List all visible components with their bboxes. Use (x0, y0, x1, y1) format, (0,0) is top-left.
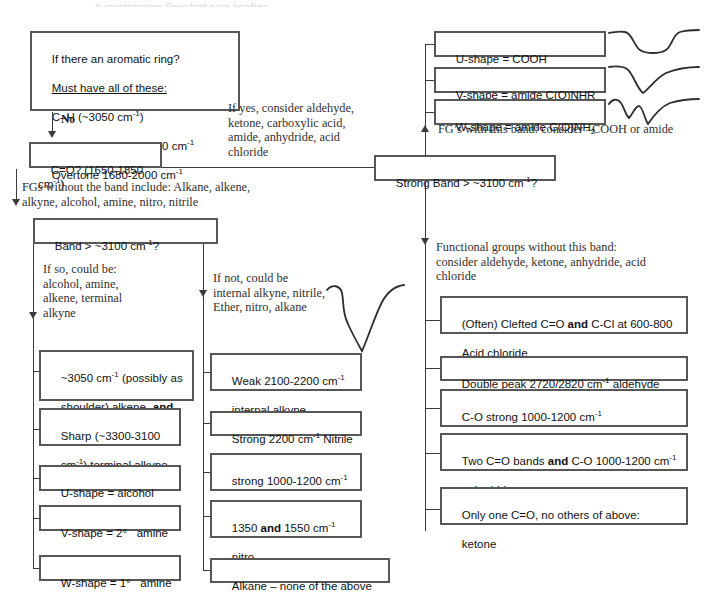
result-ether: strong 1000-1200 cm-1 ether (210, 453, 362, 491)
band-decision-box: Band > ~3100 cm-1? (33, 218, 218, 244)
connector-carbonyl-to-strong-band (162, 167, 374, 168)
middle-results-spine (203, 298, 204, 570)
middle-stub-3 (203, 472, 210, 473)
middle-stub-5 (203, 570, 210, 571)
result-ketone: Only one C=O, no others of above: ketone (440, 487, 688, 525)
note-fgs-without-this-band: Functional groups without this band: con… (436, 240, 696, 284)
result-nitrile: Strong 2200 cm-1 Nitrile (210, 411, 362, 436)
band-text: Band > ~3100 cm-1? (55, 240, 159, 252)
cropped-heading-text: ir spectroscopy flowchart page heading (95, 0, 655, 7)
strong-band-text: Strong Band > ~3100 cm-1? (396, 177, 537, 189)
aromatic-ring-box: If there an aromatic ring? Must have all… (30, 31, 240, 111)
connector-aromatic-to-carbonyl (52, 112, 53, 133)
arrowhead-carbonyl-to-band (12, 199, 20, 206)
uvw-stub-1 (425, 44, 434, 45)
result-nitro: 1350 and 1550 cm-1 nitro (210, 500, 362, 538)
connector-strong-band-no (425, 181, 426, 291)
arrowhead-aromatic-to-carbonyl (48, 131, 56, 138)
result-aldehyde: Double peak 2720/2820 cm-1 aldehyde (440, 356, 688, 381)
right-stub-3 (425, 408, 440, 409)
carbonyl-dip-curve-icon (322, 282, 420, 364)
result-w-shape-amide-nh2: W-shape = amide C(O)NH2 (434, 99, 606, 125)
result-u-shape-cooh: U-shape = COOH (434, 31, 606, 57)
middle-stub-4 (203, 516, 210, 517)
right-stub-2 (425, 368, 440, 369)
middle-stub-1 (203, 372, 210, 373)
middle-stub-2 (203, 423, 210, 424)
left-results-spine (33, 318, 34, 568)
result-u-shape-alcohol: U-shape = alcohol (39, 465, 181, 491)
connector-carbonyl-to-band (16, 169, 17, 202)
result-terminal-alkyne: Sharp (~3300-3100 cm-1) terminal alkyne (39, 408, 181, 446)
uvw-stub-3 (425, 112, 434, 113)
strong-band-decision-box: Strong Band > ~3100 cm-1? (374, 155, 556, 181)
aromatic-line-2: Must have all of these: (52, 82, 167, 94)
result-v-shape-amide-nhr: V-shape = amide C(O)NHR (434, 67, 606, 93)
flowchart-canvas: ir spectroscopy flowchart page heading I… (0, 0, 708, 605)
u-shape-curve-icon (608, 26, 700, 60)
note-fgs-without-band: FGs without the band include: Alkane, al… (22, 180, 322, 209)
right-results-spine (425, 291, 426, 531)
result-v-shape-secondary-amine: V-shape = 2° amine (39, 505, 181, 531)
uvw-results-spine (425, 44, 426, 132)
result-alkene-3050: ~3050 cm-1 (possibly as shoulder) alkene… (39, 350, 194, 401)
right-stub-4 (425, 453, 440, 454)
note-if-yes: If yes, consider aldehyde, ketone, carbo… (228, 101, 388, 159)
result-acid-chloride: (Often) Clefted C=O and C-Cl at 600-800 … (440, 296, 688, 334)
result-anhydride: Two C=O bands and C-O 1000-1200 cm-1 anh… (440, 433, 688, 471)
edge-label-no: No (61, 113, 75, 125)
right-stub-1 (425, 320, 440, 321)
result-w-shape-primary-amine: W-shape = 1° amine (39, 555, 181, 581)
arrowhead-strong-band-no (421, 238, 429, 245)
uvw-stub-2 (425, 80, 434, 81)
result-alkane: Alkane – none of the above (210, 558, 390, 583)
w-shape-curve-icon (608, 94, 700, 130)
note-if-so: If so, could be: alcohol, amine, alkene,… (43, 262, 183, 320)
result-ester: C-O strong 1000-1200 cm-1 ester (440, 389, 688, 427)
arrowhead-band-no (199, 290, 207, 297)
connector-band-yes (33, 244, 34, 315)
carbonyl-decision-box: C=O? (1650-1850 cm-1) (29, 142, 162, 168)
connector-strong-band-yes (425, 132, 426, 156)
right-stub-5 (425, 509, 440, 510)
v-shape-curve-icon (608, 62, 700, 96)
aromatic-line-1: If there an aromatic ring? (52, 53, 180, 65)
